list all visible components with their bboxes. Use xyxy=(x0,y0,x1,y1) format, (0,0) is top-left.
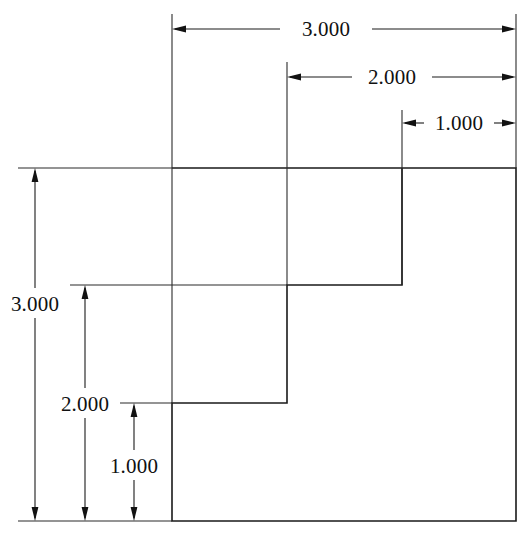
vertical-dimension-1000: 1.000 xyxy=(110,403,158,521)
arrowhead-right-1000-horizontal xyxy=(502,120,516,127)
arrowhead-bottom-2000-vertical xyxy=(82,507,89,521)
arrowhead-top-3000-vertical xyxy=(32,168,39,182)
dimension-label-2000-vertical: 2.000 xyxy=(61,392,109,416)
vertical-dimension-3000: 3.000 xyxy=(11,168,59,521)
horizontal-dimension-3000: 3.000 xyxy=(172,17,516,41)
arrowhead-left-1000-horizontal xyxy=(402,120,416,127)
dimension-label-3000-vertical: 3.000 xyxy=(11,292,59,316)
horizontal-dimension-2000: 2.000 xyxy=(287,65,516,89)
dimension-label-1000-horizontal: 1.000 xyxy=(435,111,483,135)
part-outline-path xyxy=(172,168,516,521)
arrowhead-top-2000-vertical xyxy=(82,285,89,299)
dimension-label-2000-horizontal: 2.000 xyxy=(368,65,416,89)
dimension-drawing-svg: 3.000 2.000 1.000 3.000 xyxy=(0,0,528,545)
vertical-dimension-2000: 2.000 xyxy=(61,285,109,521)
arrowhead-top-1000-vertical xyxy=(131,403,138,417)
arrowhead-right-2000-horizontal xyxy=(502,74,516,81)
engineering-drawing-canvas: 3.000 2.000 1.000 3.000 xyxy=(0,0,528,545)
arrowhead-bottom-1000-vertical xyxy=(131,507,138,521)
arrowhead-left-2000-horizontal xyxy=(287,74,301,81)
dimension-label-1000-vertical: 1.000 xyxy=(110,454,158,478)
horizontal-dimension-1000: 1.000 xyxy=(402,111,516,135)
arrowhead-bottom-3000-vertical xyxy=(32,507,39,521)
arrowhead-right-3000-horizontal xyxy=(502,26,516,33)
dimension-label-3000-horizontal: 3.000 xyxy=(302,17,350,41)
arrowhead-left-3000-horizontal xyxy=(172,26,186,33)
